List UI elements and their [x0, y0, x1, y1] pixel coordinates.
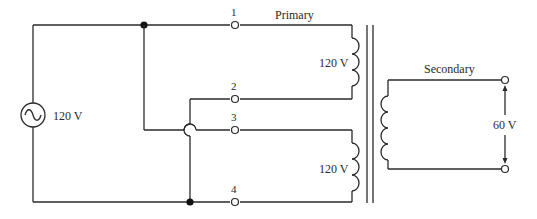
terminal-2: 2: [231, 80, 239, 103]
bottom-wire: [33, 198, 352, 205]
svg-text:4: 4: [231, 183, 237, 195]
terminal-3: 3: [231, 111, 239, 134]
terminal-4: 4: [231, 183, 239, 206]
junction-dot-bottom: [186, 198, 193, 205]
terminal-1: 1: [231, 6, 239, 29]
primary-winding-upper-icon: [352, 25, 359, 99]
source-voltage-label: 120 V: [53, 109, 83, 123]
ac-source-icon: [21, 103, 45, 127]
svg-text:3: 3: [231, 111, 237, 123]
primary-lower-voltage-label: 120 V: [319, 162, 349, 176]
top-wire: [33, 21, 352, 28]
svg-text:1: 1: [231, 6, 237, 18]
secondary-terminal-top: [502, 77, 509, 84]
svg-text:2: 2: [231, 80, 237, 92]
source-branch: 120 V: [21, 25, 83, 202]
primary-upper-voltage-label: 120 V: [319, 56, 349, 70]
transformer-core-icon: [367, 25, 373, 203]
secondary-terminal-bottom: [502, 166, 509, 173]
primary-winding-lower-icon: [352, 130, 359, 202]
transformer-circuit-diagram: 120 V 1 2 3 4 Primary: [0, 0, 537, 219]
secondary-voltage-label: 60 V: [493, 118, 517, 132]
primary-title: Primary: [275, 8, 314, 22]
secondary-winding-icon: [381, 80, 505, 169]
secondary-title: Secondary: [424, 62, 475, 76]
